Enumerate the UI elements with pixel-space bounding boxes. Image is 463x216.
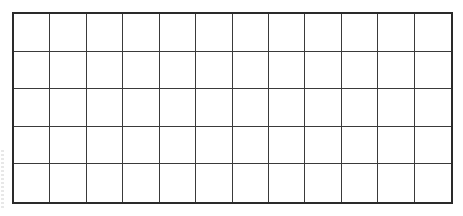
grid-cell <box>342 14 378 52</box>
grid-cell <box>196 89 232 127</box>
grid-cell <box>196 127 232 165</box>
grid-cell <box>342 164 378 202</box>
grid-cell <box>233 52 269 90</box>
grid-cell <box>50 127 86 165</box>
grid-cell <box>87 164 123 202</box>
grid-cell <box>378 52 414 90</box>
grid-cell <box>160 164 196 202</box>
grid-cell <box>123 14 159 52</box>
grid-cell <box>50 164 86 202</box>
grid-cell <box>342 52 378 90</box>
grid-cell <box>378 14 414 52</box>
grid-cell <box>87 52 123 90</box>
grid-cell <box>415 52 451 90</box>
grid-cell <box>269 164 305 202</box>
grid-cell <box>233 89 269 127</box>
grid-cell <box>305 52 341 90</box>
grid-cell <box>269 89 305 127</box>
grid-cell <box>305 89 341 127</box>
grid-cell <box>378 127 414 165</box>
grid-cell <box>14 89 50 127</box>
grid-cell <box>196 164 232 202</box>
edge-scan-artifact <box>1 150 4 210</box>
grid-cell <box>305 14 341 52</box>
grid-cell <box>196 14 232 52</box>
grid-cell <box>415 89 451 127</box>
grid-cell <box>269 127 305 165</box>
grid-cell <box>123 127 159 165</box>
grid-cell <box>233 127 269 165</box>
grid-cell <box>342 127 378 165</box>
grid-cell <box>342 89 378 127</box>
grid-cell <box>123 89 159 127</box>
grid-cell <box>160 14 196 52</box>
grid-cell <box>196 52 232 90</box>
grid-cell <box>378 89 414 127</box>
grid-cell <box>160 89 196 127</box>
grid-cell <box>233 164 269 202</box>
empty-grid <box>12 12 453 204</box>
grid-cell <box>123 164 159 202</box>
grid-cell <box>305 127 341 165</box>
grid-cell <box>160 52 196 90</box>
grid-cell <box>160 127 196 165</box>
grid-cell <box>123 52 159 90</box>
grid-cell <box>233 14 269 52</box>
grid-cell <box>378 164 414 202</box>
grid-cell <box>87 14 123 52</box>
grid-cell <box>87 127 123 165</box>
grid-cell <box>269 52 305 90</box>
grid-cell <box>269 14 305 52</box>
grid-cell <box>50 52 86 90</box>
grid-cell <box>14 14 50 52</box>
grid-cell <box>87 89 123 127</box>
grid-cell <box>415 127 451 165</box>
grid-cell <box>415 164 451 202</box>
grid-cell <box>305 164 341 202</box>
grid-cell <box>50 89 86 127</box>
grid-cell <box>50 14 86 52</box>
grid-cell <box>415 14 451 52</box>
grid-cell <box>14 164 50 202</box>
grid-cell <box>14 52 50 90</box>
grid-cell <box>14 127 50 165</box>
